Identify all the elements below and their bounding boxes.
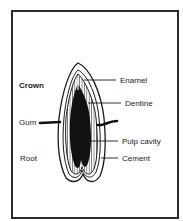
label-gum: Gum: [19, 119, 36, 127]
gum-left: [40, 122, 60, 123]
label-crown: Crown: [19, 82, 44, 90]
tooth-illustration: [0, 0, 183, 221]
label-pulp-cavity: Pulp cavity: [122, 138, 161, 146]
label-cement: Cement: [122, 155, 150, 163]
label-enamel: Enamel: [120, 77, 147, 85]
label-root: Root: [20, 155, 37, 163]
label-dentine: Dentine: [125, 100, 153, 108]
